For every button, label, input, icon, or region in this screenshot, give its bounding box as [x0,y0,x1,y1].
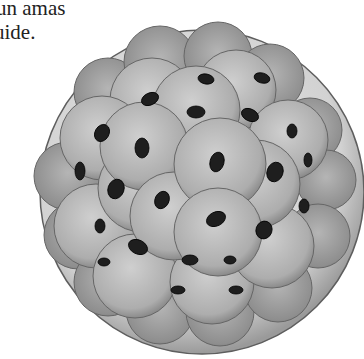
morula-illustration [0,0,364,359]
